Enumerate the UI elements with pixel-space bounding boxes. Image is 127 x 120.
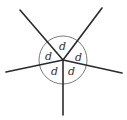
ray-upper-left [20,10,63,60]
angle-label-top: d [59,40,66,53]
ray-upper-right [63,8,102,60]
diagram-canvas: d d d d d [0,0,127,120]
angle-label-left: d [45,50,52,63]
angle-label-right: d [75,51,82,64]
angle-label-bottom-left: d [51,65,58,78]
angle-label-bottom-right: d [68,65,75,78]
